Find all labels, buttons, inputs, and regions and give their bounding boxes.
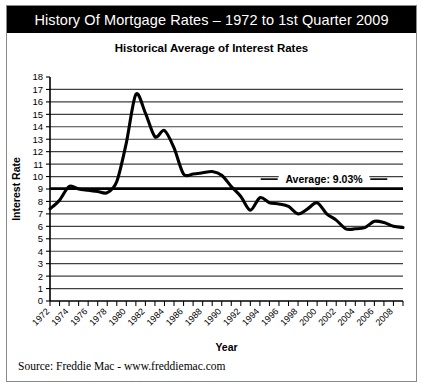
x-tick-label: 2002	[316, 306, 337, 327]
x-tick-label: 2004	[335, 306, 356, 327]
y-axis	[46, 77, 50, 301]
y-tick-label: 1	[38, 283, 43, 294]
y-tick-label: 11	[33, 159, 43, 170]
x-axis-title: Year	[215, 341, 237, 353]
y-tick-label: 5	[38, 233, 43, 244]
x-tick-label: 1996	[259, 306, 280, 327]
y-axis-title: Interest Rate	[10, 157, 22, 221]
x-tick-label: 1982	[126, 306, 147, 327]
y-tick-labels: 0123456789101112131415161718	[32, 71, 43, 306]
x-tick-label: 1978	[87, 306, 108, 327]
y-tick-label: 7	[38, 208, 43, 219]
x-tick-label: 2008	[374, 306, 395, 327]
x-tick-label: 1986	[164, 306, 185, 327]
line-chart: 0123456789101112131415161718 19721974197…	[6, 58, 417, 358]
chart-plot-area: 0123456789101112131415161718 19721974197…	[6, 58, 417, 358]
average-label: Average: 9.03%	[285, 173, 363, 185]
x-tick-label: 1992	[221, 306, 242, 327]
banner-title: History Of Mortgage Rates – 1972 to 1st …	[7, 6, 416, 33]
x-tick-label: 1972	[30, 306, 51, 327]
y-tick-label: 13	[32, 134, 43, 145]
x-tick-label: 2000	[297, 306, 318, 327]
x-tick-label: 2006	[355, 306, 376, 327]
x-tick-label: 1974	[49, 306, 70, 327]
x-tick-label: 1984	[145, 306, 166, 327]
x-tick-label: 1994	[240, 306, 261, 327]
x-axis	[50, 301, 403, 306]
x-tick-label: 1980	[107, 306, 128, 327]
y-tick-label: 17	[32, 84, 43, 95]
x-tick-label: 1976	[68, 306, 89, 327]
y-tick-label: 6	[38, 221, 43, 232]
x-tick-label: 1990	[202, 306, 223, 327]
y-tick-label: 14	[32, 121, 43, 132]
y-tick-label: 3	[38, 258, 43, 269]
y-tick-label: 10	[32, 171, 43, 182]
chart-title: Historical Average of Interest Rates	[0, 42, 423, 54]
source-caption: Source: Freddie Mac - www.freddiemac.com	[18, 360, 225, 372]
y-tick-label: 4	[38, 246, 43, 257]
y-tick-label: 9	[38, 183, 43, 194]
x-tick-label: 1998	[278, 306, 299, 327]
y-tick-label: 0	[38, 295, 43, 306]
y-tick-label: 16	[32, 96, 43, 107]
x-tick-labels: 1972197419761978198019821984198619881990…	[30, 306, 395, 327]
x-tick-label: 1988	[183, 306, 204, 327]
y-tick-label: 8	[38, 196, 43, 207]
mortgage-rates-figure: History Of Mortgage Rates – 1972 to 1st …	[0, 0, 423, 389]
y-tick-label: 15	[32, 109, 43, 120]
axis-titles: YearInterest Rate	[10, 157, 238, 353]
y-tick-label: 18	[32, 71, 43, 82]
y-tick-label: 2	[38, 271, 43, 282]
y-tick-label: 12	[32, 146, 43, 157]
